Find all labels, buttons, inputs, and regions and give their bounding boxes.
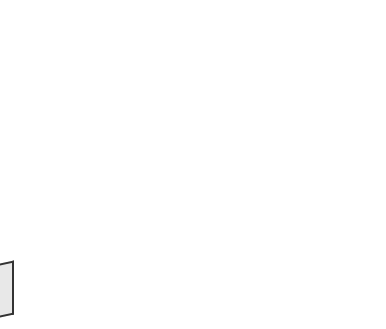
crystal-lattice-illustration: [0, 0, 386, 329]
partial-cube-outline: [0, 261, 14, 318]
